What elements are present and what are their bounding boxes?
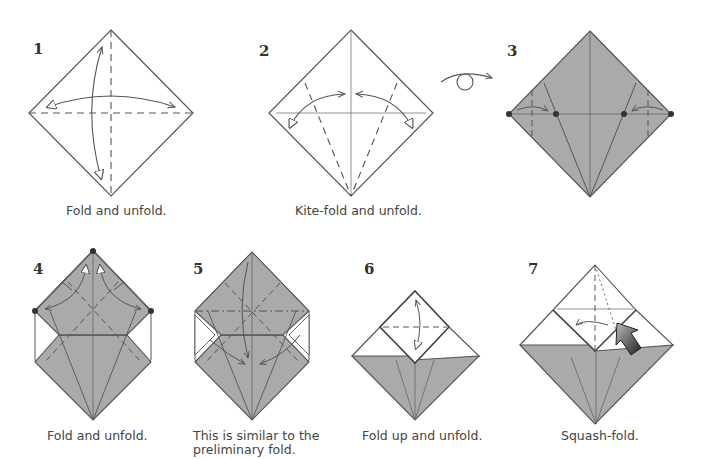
origami-diagram: [0, 0, 701, 459]
step-7-diagram: [520, 265, 673, 424]
step-5-caption-line1: This is similar to the: [193, 428, 319, 443]
step-4-diagram: [32, 248, 154, 420]
step-1-number: 1: [33, 40, 43, 58]
step-2-diagram: [269, 30, 433, 196]
step-5-caption-line2: preliminary fold.: [193, 442, 296, 457]
step-5-number: 5: [193, 260, 203, 278]
step-4-number: 4: [33, 260, 43, 278]
step-4-caption: Fold and unfold.: [47, 428, 148, 443]
turn-over-icon: [441, 74, 492, 90]
step-2-caption: Kite-fold and unfold.: [295, 203, 422, 218]
step-6-caption: Fold up and unfold.: [362, 428, 482, 443]
step-6-diagram: [352, 291, 479, 420]
step-7-number: 7: [528, 260, 538, 278]
step-3-number: 3: [507, 42, 517, 60]
step-7-caption: Squash-fold.: [561, 428, 639, 443]
step-1-diagram: [29, 30, 193, 196]
step-3-diagram: [506, 31, 674, 197]
step-2-number: 2: [259, 42, 269, 60]
step-6-number: 6: [364, 260, 374, 278]
step-1-caption: Fold and unfold.: [66, 203, 167, 218]
step-5-diagram: [195, 252, 309, 420]
